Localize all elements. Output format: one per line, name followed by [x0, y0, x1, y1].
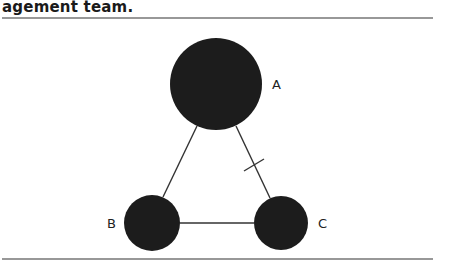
node-c: [254, 196, 308, 250]
edge-a-c-tick-mark: [244, 159, 264, 171]
node-a-label: A: [272, 77, 281, 92]
edge-a-b: [163, 126, 197, 197]
node-b-label: B: [107, 216, 116, 231]
network-diagram: A B C: [0, 0, 452, 272]
node-c-label: C: [318, 216, 327, 231]
node-a: [170, 38, 262, 130]
node-b: [124, 195, 180, 251]
edge-a-c: [236, 126, 270, 198]
